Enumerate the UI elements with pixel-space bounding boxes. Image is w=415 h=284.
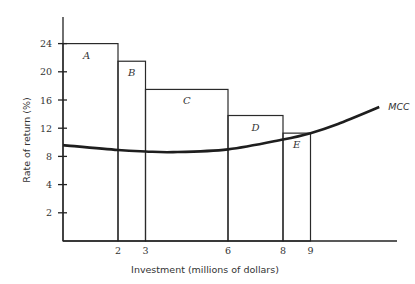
series-line-mcc (63, 107, 379, 152)
y-tick-label: 24 (40, 38, 52, 49)
x-tick-label: 2 (115, 245, 121, 256)
bar-a (63, 44, 118, 241)
bar-label-d: D (250, 122, 259, 133)
x-axis-label: Investment (millions of dollars) (131, 264, 279, 275)
bar-label-c: C (183, 95, 191, 106)
y-tick-label: 16 (40, 95, 52, 106)
bar-d (228, 116, 283, 241)
chart: ABCDE 24812162024 23689 MCC Investment (… (0, 0, 415, 284)
bar-c (146, 89, 229, 241)
y-tick-label: 12 (40, 123, 52, 134)
bar-label-e: E (292, 139, 301, 150)
series-label-mcc: MCC (388, 101, 410, 112)
y-tick-label: 2 (46, 207, 52, 218)
x-tick-label: 9 (307, 245, 313, 256)
y-axis-label: Rate of return (%) (21, 97, 32, 183)
bar-label-a: A (82, 50, 90, 61)
x-ticks: 23689 (115, 245, 314, 256)
y-tick-label: 20 (40, 66, 52, 77)
y-tick-label: 4 (46, 179, 52, 190)
x-tick-label: 8 (280, 245, 286, 256)
bar-label-b: B (127, 67, 135, 78)
x-tick-label: 6 (225, 245, 231, 256)
x-tick-label: 3 (142, 245, 148, 256)
axes-layer (63, 17, 397, 241)
y-tick-label: 8 (46, 151, 52, 162)
